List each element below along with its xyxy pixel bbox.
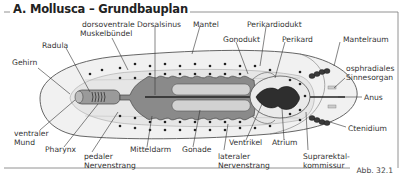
- figure-number: Abb. 32.1: [354, 166, 395, 175]
- midgut-shape: [120, 76, 256, 120]
- label-gehirn: Gehirn: [12, 58, 37, 67]
- label-perikardiodukt: Perikardiodukt: [247, 20, 302, 29]
- figure-frame: A. Mollusca – Grundbauplan dorsoventrale…: [0, 0, 405, 176]
- label-suprarektal-line2: kommissur: [303, 161, 345, 170]
- label-atrium: Atrium: [272, 138, 297, 147]
- label-dorsoventrale-line1: dorsoventrale: [82, 20, 135, 29]
- label-anus: Anus: [364, 93, 383, 102]
- label-dorsoventrale-line2: Muskelbündel: [80, 29, 132, 38]
- label-pedaler-line1: pedaler: [84, 152, 113, 161]
- figure-title: A. Mollusca – Grundbauplan: [11, 2, 190, 16]
- mouth-shape: [75, 91, 83, 103]
- label-osphradiales-line1: osphradiales: [346, 64, 394, 73]
- label-mantelraum: Mantelraum: [343, 35, 389, 44]
- label-osphradiales-line2: Sinnesorgan: [346, 73, 393, 82]
- label-gonodukt: Gonodukt: [223, 35, 260, 44]
- label-mantel: Mantel: [193, 20, 219, 29]
- label-lateraler-line2: Nervenstrang: [218, 161, 270, 170]
- label-dorsalsinus: Dorsalsinus: [137, 20, 181, 29]
- label-ventraler-line2: Mund: [14, 138, 35, 147]
- label-lateraler-line1: lateraler: [218, 152, 250, 161]
- label-ventrikel: Ventrikel: [229, 138, 262, 147]
- label-perikard: Perikard: [282, 35, 313, 44]
- label-pedaler-line2: Nervenstrang: [84, 161, 136, 170]
- label-ctenidium: Ctenidium: [348, 124, 387, 133]
- gonad-upper: [172, 84, 250, 95]
- label-ventraler-line1: ventraler: [14, 129, 49, 138]
- label-suprarektal-line1: Suprarektal-: [303, 152, 350, 161]
- label-gonade: Gonade: [182, 145, 212, 154]
- label-radula: Radula: [42, 41, 68, 50]
- label-pharynx: Pharynx: [45, 145, 76, 154]
- label-mitteldarm: Mitteldarm: [130, 145, 171, 154]
- gonad-lower: [172, 100, 250, 111]
